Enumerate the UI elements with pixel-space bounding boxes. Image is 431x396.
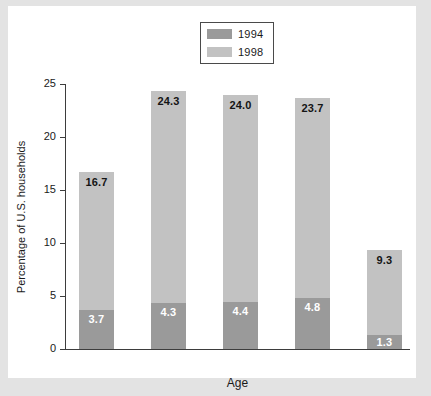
bar-value-1994-35-44: 4.4 xyxy=(223,305,258,317)
legend-label-1994: 1994 xyxy=(238,29,263,40)
bar-value-1998-55-plus: 9.3 xyxy=(367,254,402,266)
bar-1994-55-plus[interactable]: 1.3 xyxy=(367,335,402,349)
bar-value-1998-under-25: 16.7 xyxy=(79,176,114,188)
y-tick-15: 15 xyxy=(60,190,65,191)
bar-value-1998-25-34: 24.3 xyxy=(151,95,186,107)
y-tick-label-0: 0 xyxy=(50,342,56,354)
y-tick-label-20: 20 xyxy=(44,130,56,142)
y-tick-label-25: 25 xyxy=(44,77,56,89)
bar-value-1994-under-25: 3.7 xyxy=(79,313,114,325)
bar-1994-under-25[interactable]: 3.7 xyxy=(79,310,114,349)
chart-legend: 1994 1998 xyxy=(200,22,274,64)
y-tick-10: 10 xyxy=(60,243,65,244)
bar-value-1994-45-54: 4.8 xyxy=(295,301,330,313)
y-tick-25: 25 xyxy=(60,84,65,85)
y-tick-label-10: 10 xyxy=(44,236,56,248)
legend-swatch-1998 xyxy=(207,47,232,57)
y-tick-label-5: 5 xyxy=(50,289,56,301)
bar-value-1998-35-44: 24.0 xyxy=(223,99,258,111)
y-tick-label-15: 15 xyxy=(44,183,56,195)
x-axis-label: Age xyxy=(65,376,410,390)
legend-item-1998: 1998 xyxy=(207,45,267,59)
legend-swatch-1994 xyxy=(207,29,232,39)
bar-1994-35-44[interactable]: 4.4 xyxy=(223,302,258,349)
legend-item-1994: 1994 xyxy=(207,27,267,41)
y-tick-20: 20 xyxy=(60,137,65,138)
y-tick-5: 5 xyxy=(60,296,65,297)
y-tick-0: 0 xyxy=(60,349,65,350)
figure-card: 1994 1998 25 20 15 10 xyxy=(8,6,416,378)
y-axis-label: Percentage of U.S. households xyxy=(15,140,27,292)
y-axis-line xyxy=(65,84,66,349)
legend-label-1998: 1998 xyxy=(238,47,263,58)
bar-value-1998-45-54: 23.7 xyxy=(295,102,330,114)
chart-screenshot: 1994 1998 25 20 15 10 xyxy=(0,0,431,396)
bar-1994-25-34[interactable]: 4.3 xyxy=(151,303,186,349)
x-axis-line xyxy=(65,349,410,350)
bar-value-1994-25-34: 4.3 xyxy=(151,306,186,318)
bar-1994-45-54[interactable]: 4.8 xyxy=(295,298,330,349)
plot-area: 25 20 15 10 5 0 Percentage of U.S. house… xyxy=(65,84,410,349)
bar-value-1994-55-plus: 1.3 xyxy=(367,336,402,348)
